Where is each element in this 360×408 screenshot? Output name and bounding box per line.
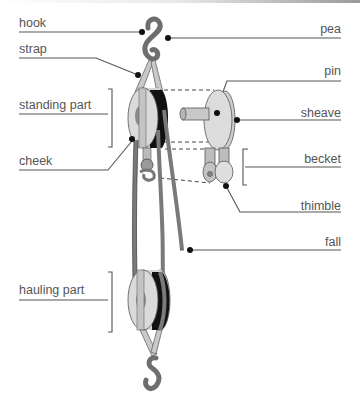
- block-and-tackle-illustration: [0, 0, 360, 408]
- becket-knot: [140, 148, 154, 180]
- sheave-detail: [180, 90, 235, 150]
- becket-detail: [203, 148, 233, 183]
- leader-lines-left: [19, 32, 142, 332]
- bottom-pulley-block: [128, 270, 170, 330]
- bottom-hook-icon: [146, 358, 159, 389]
- leader-lines-right: [168, 38, 341, 250]
- bottom-strap: [140, 330, 162, 356]
- top-hook-icon: [145, 19, 160, 59]
